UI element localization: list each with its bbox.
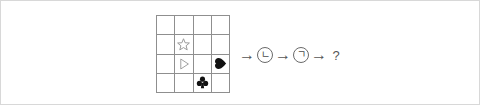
sequence-token-1[interactable]: ㄴ (257, 47, 273, 63)
arrow-icon-3: → (309, 46, 329, 64)
grid-cell-heart[interactable] (212, 55, 230, 74)
grid-cell[interactable] (212, 74, 230, 93)
grid-cell[interactable] (175, 16, 193, 35)
transformation-sequence: → ㄴ → ㄱ → ? (237, 45, 343, 65)
shape-grid (156, 15, 230, 93)
sequence-token-2[interactable]: ㄱ (293, 47, 309, 63)
puzzle-row: → ㄴ → ㄱ → ? (1, 1, 480, 105)
grid-cell[interactable] (194, 16, 212, 35)
star-icon (176, 37, 191, 52)
grid-cell-triangle[interactable] (175, 55, 193, 74)
unknown-answer[interactable]: ? (329, 46, 343, 64)
grid-cell[interactable] (157, 55, 175, 74)
grid-cell[interactable] (212, 35, 230, 54)
grid-cell[interactable] (157, 74, 175, 93)
grid-cell[interactable] (194, 35, 212, 54)
grid-cell-star[interactable] (175, 35, 193, 54)
grid-cell[interactable] (194, 55, 212, 74)
arrow-icon-2: → (273, 46, 293, 64)
grid-cell[interactable] (157, 16, 175, 35)
grid-cell[interactable] (175, 74, 193, 93)
grid-cell[interactable] (157, 35, 175, 54)
club-icon (195, 75, 210, 90)
triangle-right-icon (177, 57, 191, 71)
heart-icon (213, 56, 228, 71)
grid-cell-club[interactable] (194, 74, 212, 93)
grid-cell[interactable] (212, 16, 230, 35)
arrow-icon-1: → (237, 46, 257, 64)
page-frame: → ㄴ → ㄱ → ? (0, 0, 480, 105)
